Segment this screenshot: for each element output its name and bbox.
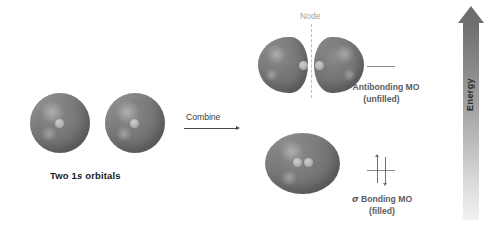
bonding-mo-orbital <box>265 133 340 194</box>
nucleus-icon-left <box>299 61 308 70</box>
energy-axis-arrow: Energy <box>456 6 486 220</box>
energy-axis-label: Energy <box>465 78 475 111</box>
antibonding-energy-level-line <box>367 66 395 67</box>
electron-down-stem <box>385 157 386 183</box>
atomic-orbitals-label-prefix: Two 1 <box>50 170 77 181</box>
orbital-lower-highlight <box>115 127 133 141</box>
bonding-mo-label: σ Bonding MO (filled) <box>330 194 434 217</box>
electron-down-head-icon <box>383 183 387 186</box>
atomic-orbital-2 <box>105 93 165 153</box>
lobe-lower-highlight <box>342 69 357 81</box>
mo-diagram: Two 1s orbitals Combine Node σ Antibondi… <box>0 0 495 228</box>
energy-arrow-head-icon <box>458 6 484 23</box>
electron-up-stem <box>377 157 378 183</box>
bonding-energy-level-line <box>367 170 395 171</box>
atomic-orbitals-label-suffix: orbitals <box>82 170 120 181</box>
bonding-mo-state: (filled) <box>369 206 395 216</box>
energy-arrow-shaft <box>463 23 479 220</box>
combine-arrow-head-icon <box>236 126 240 130</box>
orbital-lower-highlight <box>40 127 58 141</box>
atomic-orbitals-label: Two 1s orbitals <box>50 170 121 181</box>
bonding-sigma-symbol: σ <box>352 194 359 204</box>
bonding-mo-name: Bonding MO <box>359 194 412 204</box>
orbital-lower-highlight <box>279 171 299 185</box>
combine-label: Combine <box>186 112 220 122</box>
antibonding-mo-name: Antibonding MO <box>350 82 419 92</box>
antibonding-mo-label: σ Antibonding MO (unfilled) <box>323 82 440 105</box>
nucleus-icon <box>55 119 64 128</box>
nucleus-icon-left <box>293 158 302 167</box>
lobe-highlight <box>265 45 287 63</box>
node-label: Node <box>300 11 321 21</box>
combine-arrow-shaft <box>184 128 236 129</box>
nucleus-icon-right <box>315 61 324 70</box>
lobe-highlight <box>334 45 356 63</box>
nucleus-icon <box>130 119 139 128</box>
atomic-orbital-1 <box>30 93 90 153</box>
electron-up-head-icon <box>375 154 379 157</box>
orbital-highlight <box>277 141 305 161</box>
antibonding-mo-state: (unfilled) <box>363 94 399 104</box>
lobe-lower-highlight <box>264 69 279 81</box>
node-dashed-line <box>311 24 312 98</box>
nucleus-icon-right <box>304 158 313 167</box>
